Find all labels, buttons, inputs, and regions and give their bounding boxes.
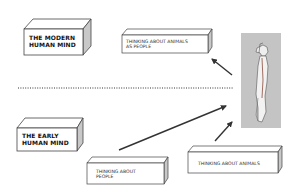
- arrow-animals-to-figure: [215, 122, 232, 141]
- label-animals-as-people: THINKING ABOUT ANIMALS AS PEOPLE: [126, 39, 188, 50]
- label-thinking-animals: THINKING ABOUT ANIMALS: [198, 161, 260, 166]
- box-thinking-animals: [188, 146, 282, 173]
- hybrid-figure-image: [241, 33, 281, 128]
- label-early-human-mind: THE EARLY HUMAN MIND: [22, 133, 69, 147]
- label-modern-human-mind: THE MODERN HUMAN MIND: [29, 35, 76, 49]
- diagram-canvas: THE MODERN HUMAN MIND THINKING ABOUT ANI…: [0, 0, 297, 191]
- arrow-figure-to-animals-as-people: [212, 59, 232, 75]
- arrow-people-to-figure: [119, 106, 226, 150]
- label-thinking-people: THINKING ABOUT PEOPLE: [96, 169, 136, 180]
